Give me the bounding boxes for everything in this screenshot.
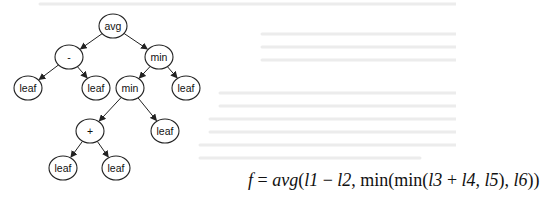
node-label: + [87, 125, 93, 137]
tree-node-leaf: leaf [49, 156, 77, 180]
formula-term: l4 [462, 170, 476, 190]
formula: f = avg(l1 − l2, min(min(l3 + l4, l5), l… [248, 170, 540, 191]
edge-arrow [124, 33, 147, 49]
node-label: min [122, 82, 139, 94]
edge-arrow [77, 67, 87, 78]
tree-node-leaf: leaf [14, 76, 42, 100]
formula-equals: = [253, 170, 272, 190]
formula-term: − [318, 170, 337, 190]
formula-term: l6 [514, 170, 528, 190]
edge-arrow [139, 66, 150, 78]
formula-term: avg [272, 170, 298, 190]
edge-arrow [138, 98, 156, 121]
formula-term: , [476, 170, 485, 190]
node-label: leaf [157, 125, 174, 137]
node-label: leaf [178, 82, 195, 94]
tree-node-plus: + [76, 119, 104, 143]
edge-arrow [97, 141, 108, 157]
tree-node-leaf: leaf [151, 119, 179, 143]
formula-term: + [442, 170, 461, 190]
node-label: leaf [108, 162, 125, 174]
edge-arrow [167, 67, 177, 78]
edge-arrow [71, 141, 83, 157]
node-label: avg [105, 20, 122, 32]
tree-node-min: min [116, 76, 144, 100]
edge-arrow [39, 65, 58, 80]
node-label: leaf [20, 82, 37, 94]
formula-term: l1 [304, 170, 318, 190]
formula-term: , min(min( [351, 170, 428, 190]
formula-term: )) [528, 170, 540, 190]
formula-term: l2 [337, 170, 351, 190]
tree-node-min: min [145, 45, 173, 69]
formula-term: l5 [485, 170, 499, 190]
edge-arrow [81, 34, 103, 49]
edge-arrow [99, 97, 121, 121]
tree-node-avg: avg [99, 14, 127, 38]
node-label: min [151, 51, 168, 63]
node-label: leaf [55, 162, 72, 174]
node-label: leaf [88, 82, 105, 94]
formula-term: ), [499, 170, 514, 190]
node-label: - [67, 51, 71, 63]
formula-term: l3 [428, 170, 442, 190]
tree-node-leaf: leaf [102, 156, 130, 180]
tree-node-leaf: leaf [172, 76, 200, 100]
tree-node-leaf: leaf [82, 76, 110, 100]
tree-node-minus: - [55, 45, 83, 69]
